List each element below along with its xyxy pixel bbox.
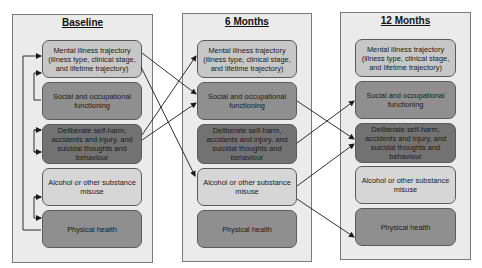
node-baseline-alcohol: Alcohol or other substance misuse (42, 168, 142, 206)
node-12m-self-harm: Deliberate self-harm, accidents and inju… (355, 123, 456, 163)
node-6m-social: Social and occupational functioning (197, 82, 297, 120)
panel-title-baseline: Baseline (13, 17, 152, 28)
node-6m-mental-illness: Mental illness trajectory (illness type,… (197, 40, 297, 78)
node-baseline-self-harm: Deliberate self-harm, accidents and inju… (42, 124, 142, 164)
node-baseline-mental-illness: Mental illness trajectory (illness type,… (42, 40, 142, 78)
panel-title-6-months: 6 Months (183, 16, 311, 27)
node-6m-physical-health: Physical health (197, 210, 297, 248)
node-12m-alcohol: Alcohol or other substance misuse (355, 166, 456, 204)
node-12m-physical-health: Physical health (355, 208, 456, 246)
node-baseline-social: Social and occupational functioning (42, 82, 142, 120)
node-6m-self-harm: Deliberate self-harm, accidents and inju… (197, 124, 297, 164)
node-6m-alcohol: Alcohol or other substance misuse (197, 168, 297, 206)
node-12m-mental-illness: Mental illness trajectory (illness type,… (355, 39, 456, 77)
node-baseline-physical-health: Physical health (42, 210, 142, 248)
panel-title-12-months: 12 Months (341, 15, 470, 26)
node-12m-social: Social and occupational functioning (355, 81, 456, 119)
